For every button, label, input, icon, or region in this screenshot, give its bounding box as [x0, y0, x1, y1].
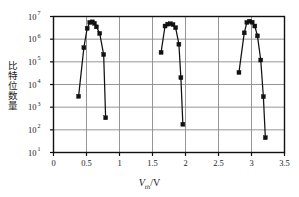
data-point-marker: [255, 34, 259, 38]
data-point-marker: [85, 26, 89, 30]
series-line: [239, 21, 265, 137]
figure-container: 比特位数量 00.511.522.533.5 10110210310410510…: [0, 0, 299, 197]
x-tick-label: 1.5: [147, 158, 158, 168]
data-point-marker: [77, 94, 81, 98]
data-point-marker: [237, 70, 241, 74]
data-point-marker: [82, 46, 86, 50]
data-point-marker: [261, 95, 265, 99]
y-tick-label: 101: [28, 146, 41, 158]
svg-text:10: 10: [28, 80, 37, 90]
data-point-marker: [104, 116, 108, 120]
data-point-marker: [250, 20, 254, 24]
chart-plot: 00.511.522.533.5 101102103104105106107: [0, 0, 299, 197]
y-tick-label: 106: [28, 33, 41, 45]
svg-text:3: 3: [38, 101, 41, 107]
data-point-marker: [242, 31, 246, 35]
y-tick-label: 107: [28, 10, 41, 22]
x-tick-label: 3.5: [279, 158, 290, 168]
data-point-marker: [94, 25, 98, 29]
svg-text:7: 7: [38, 10, 41, 16]
data-series: [77, 19, 268, 139]
svg-text:10: 10: [28, 125, 37, 135]
x-axis-label: Vth/V: [0, 172, 299, 191]
x-axis-label-text: Vth/V: [139, 177, 161, 188]
svg-text:4: 4: [38, 78, 41, 84]
svg-text:10: 10: [28, 102, 37, 112]
y-tick-labels: 101102103104105106107: [28, 10, 41, 158]
data-point-marker: [179, 76, 183, 80]
y-tick-label: 102: [28, 123, 41, 135]
data-point-marker: [102, 53, 106, 57]
svg-text:6: 6: [38, 33, 41, 39]
svg-text:2: 2: [38, 123, 41, 129]
data-point-marker: [259, 58, 263, 62]
series-line: [79, 22, 106, 118]
svg-text:5: 5: [38, 55, 41, 61]
x-tick-label: 2: [183, 158, 187, 168]
svg-text:10: 10: [28, 57, 37, 67]
x-tick-label: 3: [249, 158, 253, 168]
svg-text:1: 1: [38, 146, 41, 152]
x-tick-labels: 00.511.522.533.5: [51, 158, 289, 168]
svg-text:10: 10: [28, 34, 37, 44]
y-tick-label: 105: [28, 55, 41, 67]
data-point-marker: [159, 50, 163, 54]
data-point-marker: [263, 136, 267, 140]
data-point-marker: [98, 31, 102, 35]
data-point-marker: [253, 24, 257, 28]
data-point-marker: [181, 122, 185, 126]
svg-text:10: 10: [28, 12, 37, 22]
data-point-marker: [177, 42, 181, 46]
x-tick-label: 0.5: [81, 158, 92, 168]
gridlines: [54, 17, 285, 153]
x-tick-label: 2.5: [213, 158, 224, 168]
y-tick-label: 103: [28, 101, 41, 113]
x-tick-label: 1: [117, 158, 121, 168]
y-tick-label: 104: [28, 78, 41, 90]
svg-text:10: 10: [28, 148, 37, 158]
data-point-marker: [174, 26, 178, 30]
x-tick-label: 0: [51, 158, 55, 168]
